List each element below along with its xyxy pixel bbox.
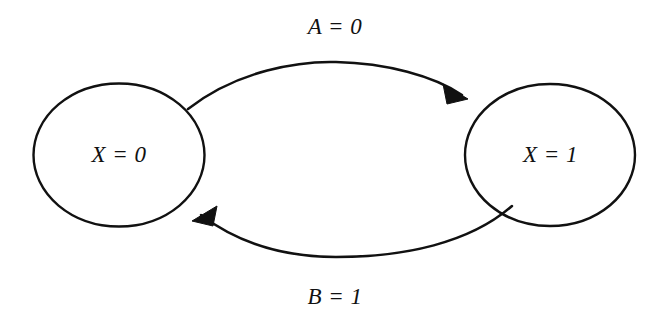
transition-label-b-equals-1: B = 1	[275, 284, 395, 310]
transition-arrow-bottom-arrowhead	[192, 206, 217, 226]
state-label-x-equals-0: X = 0	[33, 142, 205, 168]
transition-label-a-equals-0: A = 0	[275, 14, 395, 40]
transition-arrow-top-path[interactable]	[188, 62, 462, 109]
state-label-x-equals-1: X = 1	[465, 142, 636, 168]
transition-arrow-top-arrowhead	[443, 84, 468, 104]
transition-arrow-bottom-path[interactable]	[201, 206, 512, 257]
state-diagram-canvas: X = 0 X = 1 A = 0 B = 1	[0, 0, 669, 325]
